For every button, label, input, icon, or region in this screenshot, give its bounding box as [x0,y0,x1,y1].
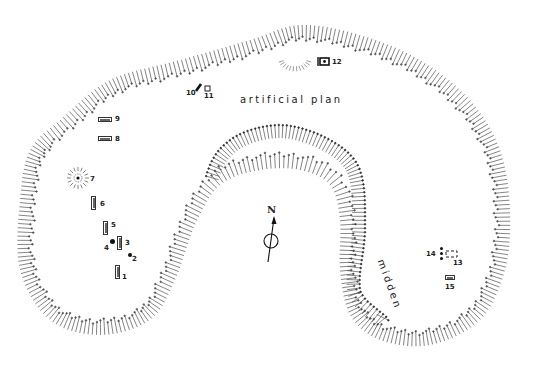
label-north: N [267,205,276,215]
label-9: 9 [115,116,120,123]
feature-15-rect [445,275,455,280]
feature-12-structure [318,57,329,66]
site-plan-drawing [0,0,552,378]
feature-14-posthole-a [440,247,443,250]
label-3: 3 [125,240,130,247]
feature-6-rect [91,196,96,210]
feature-10-slab [196,84,201,91]
label-13: 13 [453,260,463,267]
feature-3-rect [117,236,122,250]
label-8: 8 [115,136,120,143]
feature-1-rect [115,265,120,279]
feature-4-posthole [110,239,115,244]
label-4: 4 [104,245,109,252]
label-5: 5 [111,222,116,229]
feature-9-rect [98,117,112,122]
label-2: 2 [132,256,137,263]
label-6: 6 [100,201,105,208]
earthwork-hachures [17,25,510,346]
label-7: 7 [90,176,95,183]
label-12: 12 [332,59,342,66]
label-14: 14 [426,251,436,258]
label-artificial-plan: artificial plan [240,95,343,105]
label-1: 1 [122,274,127,281]
feature-13-dashed [446,251,457,257]
feature-14-posthole-b [440,252,443,255]
feature-14-posthole-c [440,257,443,260]
feature-11-square [205,86,210,91]
feature-7-mound [67,167,89,189]
feature-5-rect [103,221,108,235]
label-11: 11 [204,93,214,100]
feature-8-rect [98,136,112,141]
north-arrow-icon [264,216,278,262]
label-10: 10 [186,90,196,97]
label-15: 15 [445,284,455,291]
